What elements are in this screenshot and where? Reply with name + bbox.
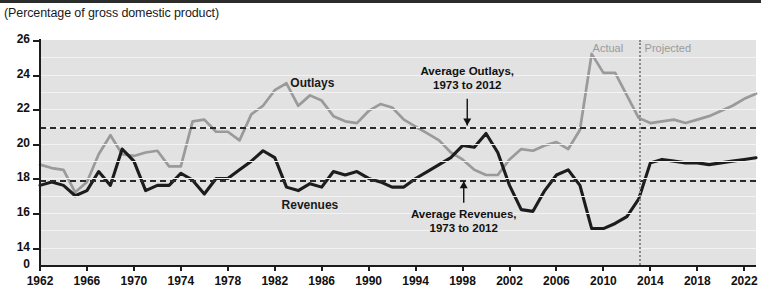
gridline <box>40 196 756 197</box>
series-label-outlays: Outlays <box>290 76 334 90</box>
x-tick-label: 1966 <box>74 274 101 288</box>
average-line-revenues <box>40 180 756 182</box>
x-tick-label: 1998 <box>449 274 476 288</box>
plot-area <box>40 40 756 265</box>
x-tick-mark <box>743 265 745 271</box>
gridline <box>40 92 756 93</box>
y-tick-mark <box>33 248 40 250</box>
callout-average-revenues: Average Revenues, 1973 to 2012 <box>411 207 517 235</box>
x-tick-label: 2014 <box>637 274 664 288</box>
gridline <box>40 230 756 231</box>
y-tick-label-zero: 0 <box>0 257 30 271</box>
y-tick-label: 26 <box>0 32 30 46</box>
x-tick-mark <box>509 265 511 271</box>
y-tick-mark <box>33 213 40 215</box>
x-tick-mark <box>321 265 323 271</box>
callout-average-revenues-line2: 1973 to 2012 <box>411 221 517 235</box>
x-tick-label: 1990 <box>355 274 382 288</box>
gridline <box>40 213 756 214</box>
x-tick-label: 1994 <box>402 274 429 288</box>
callout-average-revenues-line1: Average Revenues, <box>411 207 517 221</box>
y-tick-mark <box>33 144 40 146</box>
x-tick-label: 1978 <box>214 274 241 288</box>
gridline <box>40 75 756 76</box>
gridline <box>40 144 756 145</box>
x-tick-mark <box>602 265 604 271</box>
x-tick-label: 1970 <box>121 274 148 288</box>
x-tick-mark <box>415 265 417 271</box>
x-tick-label: 1974 <box>167 274 194 288</box>
y-axis-break-stub <box>39 240 41 266</box>
series-label-revenues: Revenues <box>282 198 339 212</box>
x-tick-mark <box>368 265 370 271</box>
average-line-outlays <box>40 127 756 129</box>
y-tick-mark <box>33 75 40 77</box>
y-tick-label: 16 <box>0 205 30 219</box>
x-tick-label: 2006 <box>543 274 570 288</box>
x-tick-mark <box>180 265 182 271</box>
gridline <box>40 57 756 58</box>
y-tick-label: 20 <box>0 136 30 150</box>
era-label-projected: Projected <box>645 42 691 54</box>
x-tick-mark <box>555 265 557 271</box>
y-tick-mark <box>33 178 40 180</box>
x-tick-label: 1962 <box>27 274 54 288</box>
y-tick-label: 22 <box>0 101 30 115</box>
x-tick-mark <box>696 265 698 271</box>
callout-average-outlays-line2: 1973 to 2012 <box>420 78 514 92</box>
x-tick-label: 2002 <box>496 274 523 288</box>
x-tick-label: 2022 <box>731 274 758 288</box>
gridline <box>40 248 756 249</box>
x-tick-mark <box>462 265 464 271</box>
chart-root: (Percentage of gross domestic product) 2… <box>0 0 761 302</box>
top-rule <box>0 0 761 3</box>
x-tick-mark <box>227 265 229 271</box>
x-tick-mark <box>274 265 276 271</box>
y-tick-label: 14 <box>0 240 30 254</box>
x-tick-label: 2010 <box>590 274 617 288</box>
era-label-actual: Actual <box>593 42 624 54</box>
y-tick-mark <box>33 109 40 111</box>
x-tick-label: 2018 <box>684 274 711 288</box>
x-tick-mark <box>649 265 651 271</box>
y-tick-label: 24 <box>0 67 30 81</box>
gridline <box>40 109 756 110</box>
chart-subtitle: (Percentage of gross domestic product) <box>4 6 219 20</box>
y-tick-mark <box>33 40 40 42</box>
x-tick-label: 1982 <box>261 274 288 288</box>
callout-average-outlays-line1: Average Outlays, <box>420 64 514 78</box>
x-tick-mark <box>39 265 41 271</box>
x-tick-label: 1986 <box>308 274 335 288</box>
actual-projected-divider <box>639 40 641 265</box>
x-tick-mark <box>133 265 135 271</box>
y-axis-line <box>39 39 41 266</box>
y-tick-label: 18 <box>0 170 30 184</box>
callout-average-outlays: Average Outlays, 1973 to 2012 <box>420 64 514 92</box>
x-tick-mark <box>86 265 88 271</box>
gridline <box>40 161 756 162</box>
